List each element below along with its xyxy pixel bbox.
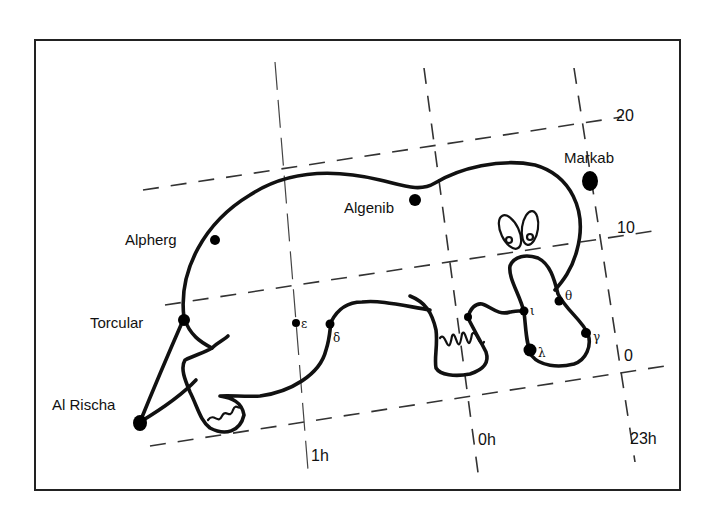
dec-line-0 bbox=[150, 366, 665, 446]
rear-paw-toes bbox=[208, 405, 240, 420]
greek-stars: ε δ ι θ γ λ bbox=[292, 289, 600, 360]
label-gamma: γ bbox=[593, 330, 600, 344]
tail-outline bbox=[140, 318, 196, 422]
label-delta: δ bbox=[333, 331, 340, 345]
ra-label-23h: 23h bbox=[630, 430, 657, 447]
label-iota: ι bbox=[530, 304, 535, 318]
star-forearm bbox=[464, 313, 472, 321]
star-epsilon bbox=[292, 319, 300, 327]
label-al-rischa: Al Rischa bbox=[52, 396, 116, 413]
star-delta bbox=[326, 320, 335, 329]
label-algenib: Algenib bbox=[344, 199, 394, 216]
ra-line-1h bbox=[275, 62, 308, 470]
diagram-frame bbox=[35, 40, 680, 490]
star-algenib bbox=[409, 194, 421, 206]
label-theta: θ bbox=[565, 289, 572, 303]
label-markab: Markab bbox=[564, 149, 614, 166]
dec-label-10: 10 bbox=[617, 219, 635, 236]
right-ascension-grid bbox=[275, 62, 635, 480]
ra-label-0h: 0h bbox=[478, 431, 496, 448]
dec-label-20: 20 bbox=[616, 107, 634, 124]
star-lambda bbox=[524, 344, 537, 357]
right-eye bbox=[527, 234, 533, 240]
forearm-outline bbox=[468, 304, 524, 318]
ra-line-23h bbox=[574, 68, 635, 462]
ra-line-0h bbox=[424, 68, 479, 480]
named-stars: Markab Algenib Alpherg Torcular Al Risch… bbox=[52, 149, 614, 431]
star-iota bbox=[520, 307, 529, 316]
dec-label-0: 0 bbox=[624, 347, 633, 364]
star-torcular bbox=[178, 314, 190, 326]
star-al-rischa bbox=[133, 415, 147, 431]
rear-haunch-outline bbox=[183, 318, 331, 432]
label-lambda: λ bbox=[538, 346, 546, 360]
star-theta bbox=[555, 297, 564, 306]
left-eye bbox=[506, 237, 512, 243]
star-alpherg bbox=[210, 235, 220, 245]
rear-leg-top-outline bbox=[212, 336, 228, 348]
star-gamma bbox=[581, 328, 591, 338]
belly-outline bbox=[331, 302, 430, 322]
label-torcular: Torcular bbox=[90, 314, 143, 331]
star-markab bbox=[582, 171, 598, 191]
constellation-diagram: 20 10 0 1h 0h 23h Markab Algenib bbox=[0, 0, 714, 519]
label-alpherg: Alpherg bbox=[125, 231, 177, 248]
dec-line-10 bbox=[165, 230, 660, 305]
ra-label-1h: 1h bbox=[311, 447, 329, 464]
label-epsilon: ε bbox=[301, 317, 307, 331]
